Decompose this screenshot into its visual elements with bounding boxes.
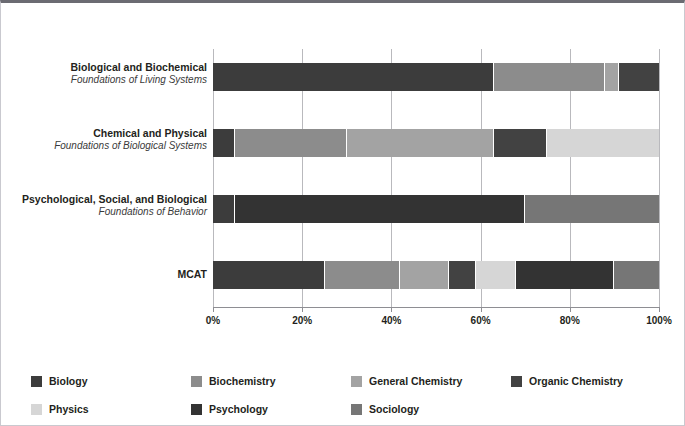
bar-segment-organic-chemistry bbox=[619, 63, 659, 91]
legend-label: General Chemistry bbox=[369, 375, 462, 387]
bar-segment-biology bbox=[213, 195, 235, 223]
category-label-primary: Chemical and Physical bbox=[1, 127, 207, 140]
legend-label: Organic Chemistry bbox=[529, 375, 623, 387]
x-tick-label: 100% bbox=[646, 315, 672, 326]
x-tick-label: 40% bbox=[381, 315, 401, 326]
category-label-primary: MCAT bbox=[1, 268, 207, 281]
legend-label: Sociology bbox=[369, 403, 419, 415]
bar-segment-sociology bbox=[614, 261, 659, 289]
tick-mark-60 bbox=[481, 307, 482, 312]
category-label-secondary: Foundations of Biological Systems bbox=[1, 140, 207, 153]
category-label: Psychological, Social, and BiologicalFou… bbox=[1, 193, 207, 219]
category-label: Chemical and PhysicalFoundations of Biol… bbox=[1, 127, 207, 153]
category-label: MCAT bbox=[1, 268, 207, 281]
legend-label: Biochemistry bbox=[209, 375, 276, 387]
bar-segment-biochemistry bbox=[235, 129, 347, 157]
legend-item-biology[interactable]: Biology bbox=[31, 375, 191, 387]
bar-row bbox=[213, 63, 659, 91]
plot-area bbox=[213, 49, 659, 307]
category-label-primary: Psychological, Social, and Biological bbox=[1, 193, 207, 206]
category-axis-labels: Biological and BiochemicalFoundations of… bbox=[1, 49, 207, 307]
legend-swatch-icon bbox=[351, 376, 362, 387]
bar-segment-organic-chemistry bbox=[494, 129, 548, 157]
legend-swatch-icon bbox=[31, 404, 42, 415]
x-tick-label: 0% bbox=[206, 315, 220, 326]
bar-segment-biology bbox=[213, 261, 325, 289]
legend-item-biochemistry[interactable]: Biochemistry bbox=[191, 375, 351, 387]
bar-segment-organic-chemistry bbox=[449, 261, 476, 289]
legend-swatch-icon bbox=[351, 404, 362, 415]
legend-label: Psychology bbox=[209, 403, 268, 415]
bar-segment-general-chemistry bbox=[605, 63, 618, 91]
bar-segment-general-chemistry bbox=[400, 261, 449, 289]
legend-item-physics[interactable]: Physics bbox=[31, 403, 191, 415]
bar-segment-physics bbox=[547, 129, 659, 157]
tick-mark-40 bbox=[391, 307, 392, 312]
stacked-bar-chart: Biological and BiochemicalFoundations of… bbox=[0, 0, 685, 426]
legend-swatch-icon bbox=[511, 376, 522, 387]
x-tick-label: 60% bbox=[471, 315, 491, 326]
tick-mark-100 bbox=[659, 307, 660, 312]
bar-segment-biology bbox=[213, 63, 494, 91]
bar-row bbox=[213, 129, 659, 157]
gridline-100 bbox=[659, 49, 660, 307]
x-tick-label: 80% bbox=[560, 315, 580, 326]
legend-item-psychology[interactable]: Psychology bbox=[191, 403, 351, 415]
chart-legend: BiologyBiochemistryGeneral ChemistryOrga… bbox=[31, 367, 661, 423]
bar-segment-sociology bbox=[525, 195, 659, 223]
bar-segment-psychology bbox=[516, 261, 614, 289]
tick-mark-80 bbox=[570, 307, 571, 312]
x-axis-line bbox=[213, 307, 660, 308]
bar-row bbox=[213, 261, 659, 289]
legend-swatch-icon bbox=[31, 376, 42, 387]
legend-swatch-icon bbox=[191, 376, 202, 387]
bar-segment-biology bbox=[213, 129, 235, 157]
legend-label: Physics bbox=[49, 403, 89, 415]
bar-segment-biochemistry bbox=[494, 63, 606, 91]
bar-row bbox=[213, 195, 659, 223]
bar-segment-biochemistry bbox=[325, 261, 401, 289]
bar-segment-general-chemistry bbox=[347, 129, 494, 157]
legend-item-general-chemistry[interactable]: General Chemistry bbox=[351, 375, 511, 387]
x-tick-label: 20% bbox=[292, 315, 312, 326]
category-label-secondary: Foundations of Behavior bbox=[1, 206, 207, 219]
legend-label: Biology bbox=[49, 375, 88, 387]
legend-item-organic-chemistry[interactable]: Organic Chemistry bbox=[511, 375, 671, 387]
category-label: Biological and BiochemicalFoundations of… bbox=[1, 61, 207, 87]
category-label-primary: Biological and Biochemical bbox=[1, 61, 207, 74]
legend-swatch-icon bbox=[191, 404, 202, 415]
bar-segment-psychology bbox=[235, 195, 525, 223]
category-label-secondary: Foundations of Living Systems bbox=[1, 74, 207, 87]
tick-mark-0 bbox=[213, 307, 214, 312]
tick-mark-20 bbox=[302, 307, 303, 312]
bar-segment-physics bbox=[476, 261, 516, 289]
legend-item-sociology[interactable]: Sociology bbox=[351, 403, 511, 415]
